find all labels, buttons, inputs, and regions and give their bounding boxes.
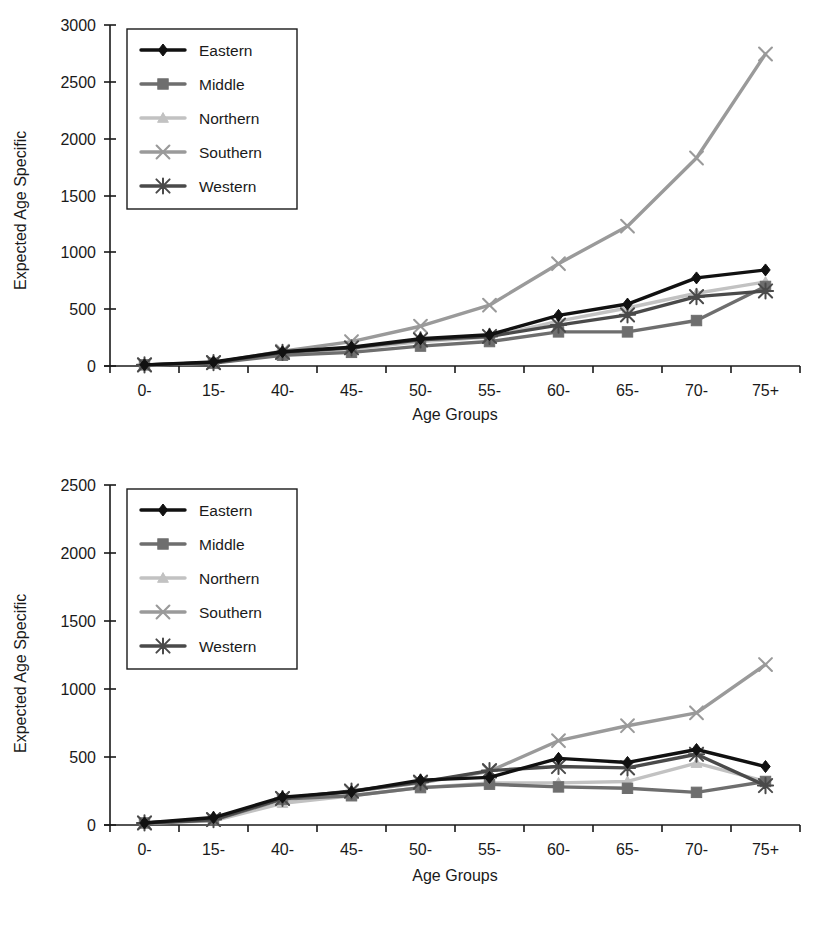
datapoint-middle-65- xyxy=(622,783,632,793)
x-tick-label-70-: 70- xyxy=(685,382,708,399)
bottom-chart: Expected Age Specific 2500 2000 1500 100… xyxy=(0,463,826,926)
x-tick-label-65-: 65- xyxy=(616,382,639,399)
datapoint-southern-75+ xyxy=(759,48,772,61)
datapoint-middle-70- xyxy=(691,787,701,797)
legend-marker-square-icon xyxy=(158,539,168,549)
figure-root: Expected Age Specific 3000 2500 2000 150… xyxy=(0,0,826,926)
legend-label-southern: Southern xyxy=(199,604,262,621)
x-tick-label-45-: 45- xyxy=(340,382,363,399)
bottom-chart-y-axis-label: Expected Age Specific xyxy=(12,594,29,753)
x-tick-label-50-: 50- xyxy=(409,382,432,399)
legend-item-western[interactable]: Western xyxy=(141,178,256,195)
legend-label-middle: Middle xyxy=(199,76,245,93)
x-tick-label-40-: 40- xyxy=(271,382,294,399)
x-tick-label-55-: 55- xyxy=(478,841,501,858)
top-chart: Expected Age Specific 3000 2500 2000 150… xyxy=(0,0,826,463)
top-chart-y-axis-label: Expected Age Specific xyxy=(12,131,29,290)
x-tick-label-45-: 45- xyxy=(340,841,363,858)
bottom-chart-canvas: Expected Age Specific 2500 2000 1500 100… xyxy=(0,463,826,926)
datapoint-middle-70- xyxy=(691,315,701,325)
datapoint-eastern-75+ xyxy=(761,264,770,276)
x-tick-label-60-: 60- xyxy=(547,841,570,858)
top-chart-x-axis-label: Age Groups xyxy=(412,406,497,423)
x-tick-label-15-: 15- xyxy=(202,382,225,399)
series-line-western xyxy=(145,754,766,823)
bottom-chart-ytick-label-500: 500 xyxy=(69,749,96,766)
x-tick-label-0-: 0- xyxy=(137,841,151,858)
top-chart-ytick-label-0: 0 xyxy=(87,358,96,375)
datapoint-southern-70- xyxy=(690,152,703,165)
datapoint-middle-65- xyxy=(622,327,632,337)
bottom-chart-legend: EasternMiddleNorthernSouthernWestern xyxy=(127,489,297,669)
datapoint-eastern-75+ xyxy=(761,761,770,773)
legend-label-northern: Northern xyxy=(199,570,259,587)
datapoint-southern-65- xyxy=(621,220,634,233)
x-tick-label-15-: 15- xyxy=(202,841,225,858)
legend-label-northern: Northern xyxy=(199,110,259,127)
legend-label-middle: Middle xyxy=(199,536,245,553)
series-western xyxy=(137,747,773,831)
bottom-chart-x-ticks: 0-15-40-45-50-55-60-65-70-75+ xyxy=(110,825,800,858)
series-middle xyxy=(139,281,770,370)
datapoint-western-75+ xyxy=(758,283,773,298)
top-chart-ytick-label-1500: 1500 xyxy=(60,188,96,205)
top-chart-ytick-label-2000: 2000 xyxy=(60,131,96,148)
x-tick-label-50-: 50- xyxy=(409,841,432,858)
bottom-chart-ytick-label-2000: 2000 xyxy=(60,545,96,562)
bottom-chart-ytick-label-2500: 2500 xyxy=(60,477,96,494)
legend-label-southern: Southern xyxy=(199,144,262,161)
top-chart-legend: EasternMiddleNorthernSouthernWestern xyxy=(127,29,297,209)
legend-label-eastern: Eastern xyxy=(199,42,252,59)
x-tick-label-55-: 55- xyxy=(478,382,501,399)
x-tick-label-65-: 65- xyxy=(616,841,639,858)
x-tick-label-75+: 75+ xyxy=(752,841,779,858)
top-chart-ytick-label-500: 500 xyxy=(69,301,96,318)
datapoint-middle-60- xyxy=(553,782,563,792)
x-tick-label-40-: 40- xyxy=(271,841,294,858)
datapoint-southern-75+ xyxy=(759,658,772,671)
top-chart-ytick-label-2500: 2500 xyxy=(60,74,96,91)
top-chart-canvas: Expected Age Specific 3000 2500 2000 150… xyxy=(0,0,826,463)
series-line-middle xyxy=(145,781,766,822)
datapoint-western-70- xyxy=(689,289,704,304)
top-chart-ytick-label-1000: 1000 xyxy=(60,244,96,261)
top-chart-ytick-label-3000: 3000 xyxy=(60,17,96,34)
legend-label-eastern: Eastern xyxy=(199,502,252,519)
bottom-chart-ytick-label-1500: 1500 xyxy=(60,613,96,630)
legend-label-western: Western xyxy=(199,178,256,195)
bottom-chart-series-group xyxy=(137,658,773,830)
x-tick-label-70-: 70- xyxy=(685,841,708,858)
legend-marker-square-icon xyxy=(158,79,168,89)
legend-marker-asterisk-icon xyxy=(155,178,170,193)
datapoint-eastern-70- xyxy=(692,272,701,284)
legend-marker-asterisk-icon xyxy=(155,638,170,653)
datapoint-southern-60- xyxy=(552,257,565,270)
x-tick-label-60-: 60- xyxy=(547,382,570,399)
legend-item-western[interactable]: Western xyxy=(141,638,256,655)
bottom-chart-ytick-label-1000: 1000 xyxy=(60,681,96,698)
series-line-southern xyxy=(145,665,766,823)
bottom-chart-x-axis-label: Age Groups xyxy=(412,867,497,884)
x-tick-label-75+: 75+ xyxy=(752,382,779,399)
x-tick-label-0-: 0- xyxy=(137,382,151,399)
datapoint-western-75+ xyxy=(758,778,773,793)
series-line-western xyxy=(145,291,766,365)
series-southern xyxy=(138,658,772,829)
legend-label-western: Western xyxy=(199,638,256,655)
bottom-chart-ytick-label-0: 0 xyxy=(87,817,96,834)
